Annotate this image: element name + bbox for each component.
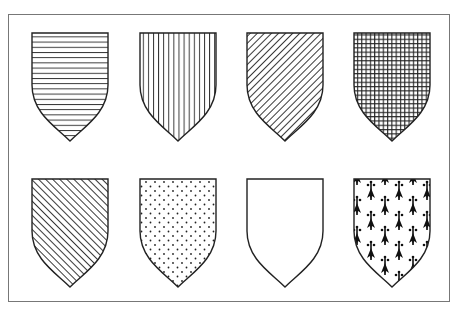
shield-dotted bbox=[140, 179, 216, 287]
shield-crosshatch bbox=[354, 33, 430, 141]
shields-figure bbox=[0, 0, 461, 312]
shield-diagonal-sinister bbox=[32, 179, 108, 287]
shield-horizontal-lines bbox=[32, 33, 108, 141]
shield-diagonal-dexter bbox=[247, 33, 323, 141]
shield-ermine bbox=[354, 179, 430, 287]
shield-vertical-lines bbox=[140, 33, 216, 141]
shield-plain bbox=[247, 179, 323, 287]
